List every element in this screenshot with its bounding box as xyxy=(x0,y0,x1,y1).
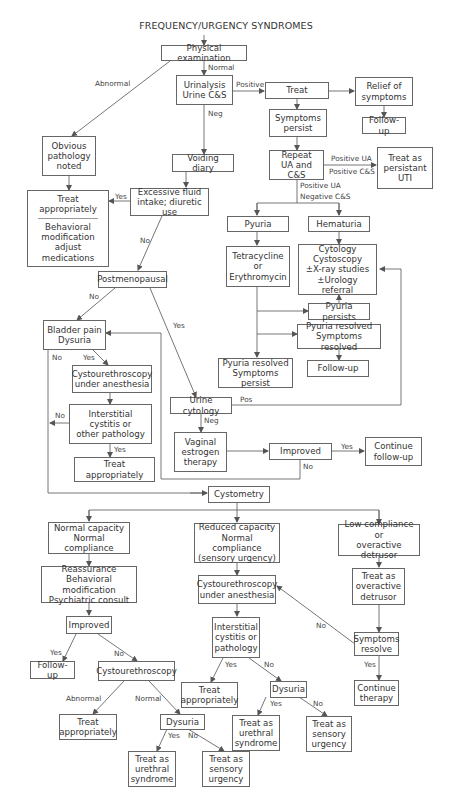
node-pyuria-resolved-symptoms-resolved: Pyuria resolved Symptoms resolved xyxy=(297,324,381,349)
label-neg: Neg xyxy=(208,110,223,118)
label-positive-cs: Positive C&S xyxy=(329,168,375,176)
node-improved-2: Improved xyxy=(66,616,112,634)
treat-appropriately-text: Treat appropriately xyxy=(39,194,97,215)
label-yes-postmenopausal: Yes xyxy=(173,322,185,330)
label-normal-2: Normal xyxy=(135,695,161,703)
label-no-fluid: No xyxy=(140,237,150,245)
label-positive-ua-2: Positive UA xyxy=(300,182,341,190)
label-positive-ua: Positive UA xyxy=(331,155,372,163)
node-follow-up-2: Follow-up xyxy=(307,360,369,377)
node-sensory-urgency-2: Treat as sensory urgency xyxy=(202,751,250,787)
label-no-dysuria-1: No xyxy=(313,700,323,708)
node-treat-appropriately-4: Treat appropriately xyxy=(59,714,117,740)
node-vaginal-estrogen: Vaginal estrogen therapy xyxy=(174,432,227,472)
node-treat-appropriately-top: Treat appropriately Behavioral modificat… xyxy=(27,190,109,267)
label-no-postmenopausal: No xyxy=(89,293,99,301)
node-interstitial-cystitis-2: Interstitial cystitis or pathology xyxy=(212,617,260,658)
label-yes-fluid: Yes xyxy=(115,193,127,201)
node-continue-follow-up: Continue follow-up xyxy=(365,437,422,466)
label-yes-improved: Yes xyxy=(341,443,353,451)
node-follow-up-3: Follow-up xyxy=(30,661,75,679)
label-no-dysuria-2: No xyxy=(188,732,198,740)
label-negative-cs: Negative C&S xyxy=(300,193,350,201)
node-dysuria-1: Dysuria xyxy=(270,681,307,698)
node-continue-therapy: Continue therapy xyxy=(354,680,399,706)
label-yes-dysuria-1: Yes xyxy=(270,700,282,708)
node-symptoms-persist: Symptoms persist xyxy=(269,109,327,137)
node-improved-1: Improved xyxy=(269,443,332,460)
node-cystourethroscopy-anesthesia-2: Cystourethroscopy under anesthesia xyxy=(198,575,276,604)
node-pyuria-persists: Pyuria persists xyxy=(308,303,370,320)
node-voiding-diary: Voiding diary xyxy=(172,154,234,172)
label-no-interstitial-2: No xyxy=(264,661,274,669)
node-postmenopausal: Postmenopausal xyxy=(98,271,167,288)
label-no-symptoms: No xyxy=(316,622,326,630)
label-abnormal: Abnormal xyxy=(95,80,130,88)
node-pyuria: Pyuria xyxy=(227,216,289,232)
node-urethral-syndrome-2: Treat as urethral syndrome xyxy=(128,751,176,787)
node-cystometry: Cystometry xyxy=(208,486,270,503)
node-sensory-urgency-1: Treat as sensory urgency xyxy=(306,716,352,752)
node-obvious-pathology: Obvious pathology noted xyxy=(42,136,96,176)
node-tetracycline: Tetracycline or Erythromycin xyxy=(226,246,290,287)
label-no-bladder: No xyxy=(52,354,62,362)
node-repeat-ua: Repeat UA and C&S xyxy=(269,150,324,180)
node-persistant-uti: Treat as persistant UTI xyxy=(377,147,433,189)
diagram-title: FREQUENCY/URGENCY SYNDROMES xyxy=(0,20,452,31)
node-interstitial-cystitis-1: Interstitial cystitis or other pathology xyxy=(69,404,152,444)
label-positive: Positive xyxy=(236,81,264,89)
node-dysuria-2: Dysuria xyxy=(160,714,205,730)
node-cytology-cystoscopy: Cytology Cystoscopy ±X-ray studies ±Urol… xyxy=(298,244,377,295)
node-treat-appropriately-2: Treat appropriately xyxy=(74,457,155,482)
label-yes-improved-2: Yes xyxy=(50,649,62,657)
node-low-compliance: Low compliance or overactive detrusor xyxy=(338,524,420,556)
node-physical-examination: Physical examination xyxy=(161,45,247,61)
node-cystourethroscopy: Cystourethroscopy xyxy=(98,661,175,681)
label-neg-cytology: Neg xyxy=(204,417,219,425)
label-normal: Normal xyxy=(208,64,234,72)
label-yes-interstitial: Yes xyxy=(114,446,126,454)
divider xyxy=(38,218,99,219)
label-no-improved: No xyxy=(303,463,313,471)
label-yes-bladder: Yes xyxy=(83,354,95,362)
node-treat-overactive-detrusor: Treat as overactive detrusor xyxy=(352,568,405,605)
node-treat-appropriately-3: Treat appropriately xyxy=(181,682,238,708)
label-abnormal-2: Abnormal xyxy=(66,695,101,703)
label-no-interstitial: No xyxy=(55,412,65,420)
node-bladder-pain: Bladder pain Dysuria xyxy=(43,320,106,350)
node-normal-capacity: Normal capacity Normal compliance xyxy=(48,522,130,554)
label-yes-interstitial-2: Yes xyxy=(225,661,237,669)
node-urinalysis: Urinalysis Urine C&S xyxy=(176,75,233,105)
behavioral-modification-text: Behavioral modification adjust medicatio… xyxy=(30,222,106,263)
node-excessive-fluid: Excessive fluid intake; diuretic use xyxy=(130,188,209,216)
node-cystourethroscopy-anesthesia-1: Cystourethroscopy under anesthesia xyxy=(72,365,152,393)
node-urethral-syndrome-1: Treat as urethral syndrome xyxy=(232,715,280,751)
node-pyuria-resolved-symptoms-persist: Pyuria resolved Symptoms persist xyxy=(218,358,293,388)
node-symptoms-resolve: Symptoms resolve xyxy=(354,632,399,656)
node-urine-cytology: Urine cytology xyxy=(170,397,232,414)
node-reduced-capacity: Reduced capacity Normal compliance (sens… xyxy=(194,523,280,563)
node-hematuria: Hematuria xyxy=(308,216,370,232)
label-yes-symptoms: Yes xyxy=(364,661,376,669)
node-relief-of-symptoms: Relief of symptoms xyxy=(355,77,413,106)
label-yes-dysuria-2: Yes xyxy=(168,732,180,740)
node-follow-up-1: Follow-up xyxy=(362,117,406,134)
label-no-improved-2: No xyxy=(114,650,124,658)
label-pos-cytology: Pos xyxy=(240,396,252,404)
node-treat: Treat xyxy=(265,82,329,99)
node-reassurance: Reassurance Behavioral modification Psyc… xyxy=(41,566,137,603)
